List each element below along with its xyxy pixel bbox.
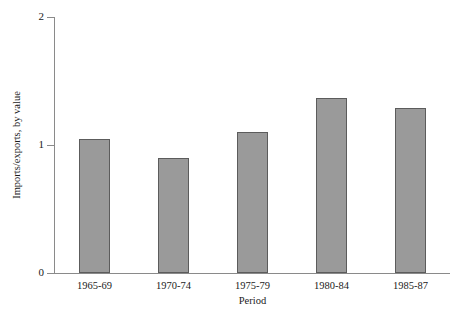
bar-chart: Imports/exports, by value 012 1965-69197… [0,0,467,320]
bar [237,132,268,273]
x-axis-tick-label: 1975-79 [208,279,298,292]
x-axis-tick-label: 1970-74 [129,279,219,292]
bar [395,108,426,273]
x-axis-tick-label: 1985-87 [366,279,456,292]
y-axis-tick-mark [47,17,54,18]
plot-area [55,17,450,273]
y-axis-tick-label: 2 [26,10,44,23]
bar [79,139,110,273]
x-axis-line [54,273,450,274]
y-axis-title-label: Imports/exports, by value [11,91,23,199]
y-axis-tick-mark [47,145,54,146]
x-axis-title: Period [55,294,450,307]
bar [316,98,347,273]
y-axis-tick-label: 0 [26,266,44,279]
x-axis-tick-label: 1980-84 [287,279,377,292]
y-axis-tick-label: 1 [26,138,44,151]
bar [158,158,189,273]
y-axis-tick-mark [47,273,54,274]
x-axis-tick-label: 1965-69 [50,279,140,292]
